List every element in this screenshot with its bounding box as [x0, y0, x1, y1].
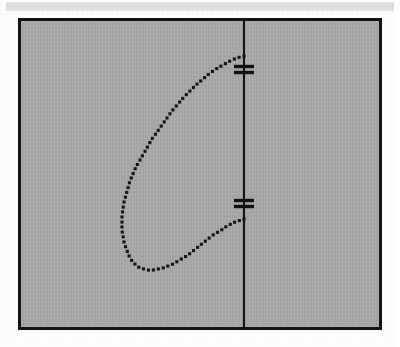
curve-dot	[185, 93, 188, 96]
curve-dot	[138, 158, 141, 161]
figure-frame	[18, 18, 382, 330]
curve-dot	[208, 237, 211, 240]
curve-dot	[122, 240, 125, 243]
curve-dot	[216, 231, 219, 234]
curve-dot	[224, 62, 227, 65]
curve-dot	[242, 54, 245, 57]
curve-dot	[160, 125, 163, 128]
curve-dot	[238, 219, 241, 222]
curve-dot	[120, 215, 123, 218]
curve-dot	[130, 259, 133, 262]
curve-dot	[228, 60, 231, 63]
curve-dot	[120, 221, 123, 224]
curve-dot	[178, 101, 181, 104]
curve-dot	[203, 76, 206, 79]
curve-dot	[181, 97, 184, 100]
curve-dot	[130, 176, 133, 179]
curve-dot	[125, 191, 128, 194]
curve-dot	[233, 221, 236, 224]
curve-dot	[122, 206, 125, 209]
curve-dot	[124, 196, 127, 199]
curve-dot	[242, 217, 245, 220]
curve-dot	[136, 163, 139, 166]
curve-dot	[154, 133, 157, 136]
curve-dot	[143, 150, 146, 153]
curve-dot	[233, 57, 236, 60]
curve-dot	[195, 83, 198, 86]
curve-dot	[152, 268, 155, 271]
curve-dot	[219, 65, 222, 68]
curve-dot	[175, 260, 178, 263]
curve-dot	[121, 231, 124, 234]
curve-dot	[124, 245, 127, 248]
curve-dot	[157, 129, 160, 132]
curve-dot	[141, 154, 144, 157]
figure-plot	[21, 21, 379, 327]
curve-dot	[220, 228, 223, 231]
curve-dot	[122, 200, 125, 203]
curve-dot	[128, 181, 131, 184]
curve-dot	[122, 235, 125, 238]
curve-dot	[207, 73, 210, 76]
curve-dot	[196, 246, 199, 249]
curve-dot	[132, 172, 135, 175]
curve-dot	[148, 141, 151, 144]
curve-dot	[200, 243, 203, 246]
curve-dot	[188, 252, 191, 255]
curve-dot	[168, 112, 171, 115]
curve-dot	[204, 240, 207, 243]
curve-dot	[238, 56, 241, 59]
curve-dot	[151, 137, 154, 140]
curve-dot	[192, 86, 195, 89]
curve-dot	[171, 263, 174, 266]
curve-dot	[147, 269, 150, 272]
curve-dot	[171, 108, 174, 111]
curve-dot	[212, 233, 215, 236]
curve-dot	[133, 263, 136, 266]
scan-header-band	[6, 2, 394, 11]
curve-dot	[215, 67, 218, 70]
curve-dot	[162, 266, 165, 269]
curve-dot	[127, 186, 130, 189]
curve-dot	[146, 146, 149, 149]
curve-dot	[224, 225, 227, 228]
curve-dot	[120, 225, 123, 228]
curve-dot	[134, 167, 137, 170]
curve-dot	[188, 90, 191, 93]
curve-dot	[184, 255, 187, 258]
curve-dot	[199, 79, 202, 82]
dotted-teardrop-curve	[120, 54, 245, 271]
curve-dot	[157, 267, 160, 270]
curve-dot	[192, 249, 195, 252]
curve-dot	[175, 104, 178, 107]
curve-dot	[163, 120, 166, 123]
curve-dot	[166, 265, 169, 268]
curve-dot	[137, 266, 140, 269]
curve-dot	[180, 257, 183, 260]
curve-dot	[229, 223, 232, 226]
curve-dot	[142, 267, 145, 270]
curve-dot	[165, 116, 168, 119]
scan-header-band-texture	[12, 4, 400, 13]
curve-dot	[121, 210, 124, 213]
curve-dot	[126, 250, 129, 253]
curve-dot	[211, 70, 214, 73]
curve-dot	[128, 254, 131, 257]
